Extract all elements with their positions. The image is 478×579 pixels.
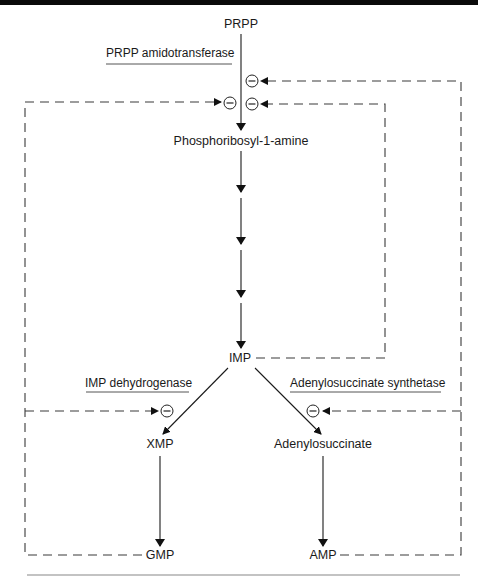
feedback-amp-to-prpp-amidotransferase [261,81,461,555]
feedback-arrowhead [322,407,330,415]
enzyme-prpp-amidotransferase: PRPP amidotransferase [106,46,235,60]
pathway-diagram: PRPP Phosphoribosyl-1-amine IMP XMP Aden… [0,0,478,579]
feedback-arrowhead [151,407,159,415]
node-phosphoribosyl-1-amine: Phosphoribosyl-1-amine [174,134,309,148]
feedback-arrowhead [214,98,222,106]
node-xmp: XMP [146,437,173,451]
feedback-arrowhead [260,100,268,108]
inhibition-icon [224,97,236,109]
feedback-arrowhead [260,77,268,85]
enzyme-imp-dehydrogenase: IMP dehydrogenase [85,376,193,390]
node-imp: IMP [229,351,251,365]
inhibition-icon [246,98,258,110]
inhibition-icon [246,75,258,87]
inhibition-icon [161,405,173,417]
node-adenylosuccinate: Adenylosuccinate [274,437,372,451]
node-prpp: PRPP [224,17,258,31]
node-amp: AMP [309,548,336,562]
feedback-gmp-to-prpp-amidotransferase [25,102,221,555]
node-gmp: GMP [146,548,174,562]
inhibition-icon [307,405,319,417]
enzyme-adenylosuccinate-synthetase: Adenylosuccinate synthetase [290,376,446,390]
